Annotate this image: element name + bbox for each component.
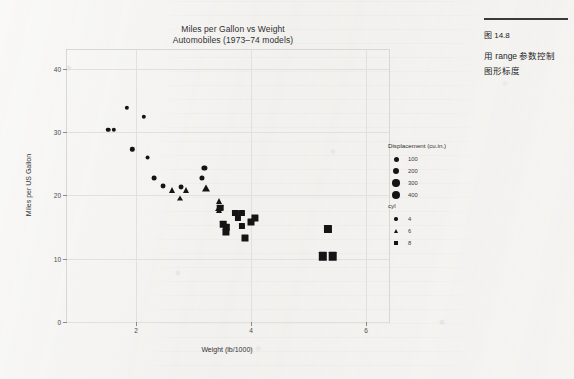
x-axis-title: Weight (lb/1000) (201, 346, 252, 353)
data-point-cyl-8 (324, 225, 332, 233)
legend-cyl-label: 8 (408, 240, 411, 246)
data-point-cyl-4 (106, 127, 111, 132)
gridline-horizontal (67, 195, 389, 196)
data-point-cyl-6 (202, 184, 210, 191)
figure-caption: 图 14.8 用 range 参数控制 图形标度 (484, 18, 568, 79)
square-marker-icon (388, 241, 404, 244)
legend-displacement-item: 100 (388, 153, 464, 165)
x-tick-mark (251, 322, 252, 326)
legend-cyl-item: 4 (388, 213, 464, 225)
gridline-vertical (366, 50, 367, 322)
x-tick-label: 2 (134, 327, 138, 334)
data-point-cyl-8 (248, 219, 255, 226)
bubble-icon (388, 168, 404, 174)
gridline-vertical (136, 50, 137, 322)
gridline-horizontal (67, 259, 389, 260)
data-point-cyl-8 (239, 210, 245, 216)
gridline-vertical (251, 50, 252, 322)
chart-subtitle: Automobiles (1973–74 models) (0, 35, 466, 46)
y-tick-label: 40 (54, 65, 61, 72)
x-tick-label: 6 (364, 327, 368, 334)
data-point-cyl-4 (130, 147, 134, 151)
legend-cyl-label: 4 (408, 216, 411, 222)
legend-displacement: Displacement (cu.in.) 100200300400 (388, 142, 464, 201)
data-point-cyl-4 (142, 115, 146, 119)
data-point-cyl-8 (223, 224, 229, 230)
legend-cyl-item: 6 (388, 225, 464, 237)
legend-cyl-label: 6 (408, 228, 411, 234)
caption-line-2: 图形标度 (484, 64, 568, 79)
bubble-icon (388, 157, 404, 162)
y-tick-label: 10 (54, 255, 61, 262)
y-tick-label: 20 (54, 192, 61, 199)
data-point-cyl-4 (152, 175, 157, 180)
data-point-cyl-6 (177, 196, 183, 201)
chart-title: Miles per Gallon vs Weight (0, 24, 466, 35)
x-tick-label: 4 (249, 327, 253, 334)
caption-number: 图 14.8 (484, 29, 568, 40)
legend-cyl-title: cyl (388, 202, 464, 209)
data-point-cyl-8 (242, 234, 249, 241)
legend-displacement-label: 300 (408, 180, 418, 186)
data-point-cyl-4 (145, 155, 150, 160)
legend-displacement-title: Displacement (cu.in.) (388, 142, 464, 149)
caption-line-1: 用 range 参数控制 (484, 49, 568, 64)
data-point-cyl-6 (169, 187, 175, 193)
data-point-cyl-4 (200, 175, 205, 180)
legend-displacement-label: 200 (408, 168, 418, 174)
legend-cyl-item: 8 (388, 237, 464, 249)
data-point-cyl-8 (235, 215, 241, 221)
legend-displacement-label: 400 (408, 192, 418, 198)
data-point-cyl-8 (239, 223, 245, 229)
gridline-horizontal (67, 69, 389, 70)
gridline-horizontal (67, 322, 389, 323)
figure-scatter-plot: Miles per Gallon vs Weight Automobiles (… (0, 0, 466, 379)
legend-displacement-item: 400 (388, 189, 464, 201)
gridline-horizontal (67, 132, 389, 133)
legend-displacement-item: 300 (388, 177, 464, 189)
legend-displacement-item: 200 (388, 165, 464, 177)
y-axis-title: Miles per US Gallon (25, 154, 32, 216)
x-tick-mark (366, 322, 367, 326)
data-point-cyl-4 (160, 184, 165, 189)
plot-panel: 010203040246 (66, 49, 390, 323)
y-tick-mark (63, 195, 67, 196)
bubble-icon (388, 191, 404, 200)
legend-cyl: cyl 468 (388, 202, 464, 249)
data-point-cyl-4 (124, 105, 128, 109)
caption-rule (484, 18, 568, 20)
y-tick-mark (63, 132, 67, 133)
triangle-marker-icon (388, 229, 404, 233)
y-tick-mark (63, 259, 67, 260)
circle-marker-icon (388, 217, 404, 220)
x-tick-mark (136, 322, 137, 326)
data-point-cyl-4 (202, 165, 207, 170)
legend-displacement-label: 100 (408, 156, 418, 162)
data-point-cyl-8 (329, 252, 338, 261)
data-point-cyl-6 (183, 187, 189, 193)
y-tick-label: 30 (54, 129, 61, 136)
y-tick-mark (63, 322, 67, 323)
bubble-icon (388, 179, 404, 186)
data-point-cyl-4 (112, 127, 116, 131)
y-tick-label: 0 (57, 319, 61, 326)
y-tick-mark (63, 69, 67, 70)
data-point-cyl-8 (319, 252, 327, 260)
data-point-cyl-8 (217, 204, 224, 211)
